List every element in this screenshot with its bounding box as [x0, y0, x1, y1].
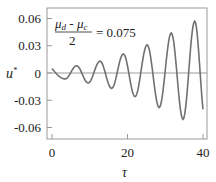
annotation-denominator: 2: [69, 33, 76, 48]
x-tick-label: 20: [121, 145, 134, 160]
y-tick-label: 0.06: [18, 11, 41, 26]
svg-text:μd - μc: μd - μc: [54, 16, 87, 32]
y-tick-label: 0: [35, 66, 42, 81]
x-axis-label: τ: [122, 165, 128, 180]
annotation-value: = 0.075: [96, 25, 136, 40]
y-tick-label: -0.06: [14, 120, 42, 135]
y-tick-label: 0.03: [18, 38, 41, 53]
x-tick-label: 0: [49, 145, 56, 160]
x-tick-label: 40: [197, 145, 210, 160]
y-axis-label: u*: [6, 66, 17, 81]
chart: 0.060.030-0.03-0.06 02040 u* τ μd - μc 2…: [0, 0, 216, 182]
y-tick-label: -0.03: [14, 93, 41, 108]
y-axis: 0.060.030-0.03-0.06: [14, 11, 52, 135]
x-axis: 02040: [49, 134, 210, 160]
annotation-minus: -: [66, 16, 77, 31]
annotation: μd - μc 2 = 0.075: [54, 16, 136, 48]
annotation-sub-c: c: [83, 22, 87, 32]
